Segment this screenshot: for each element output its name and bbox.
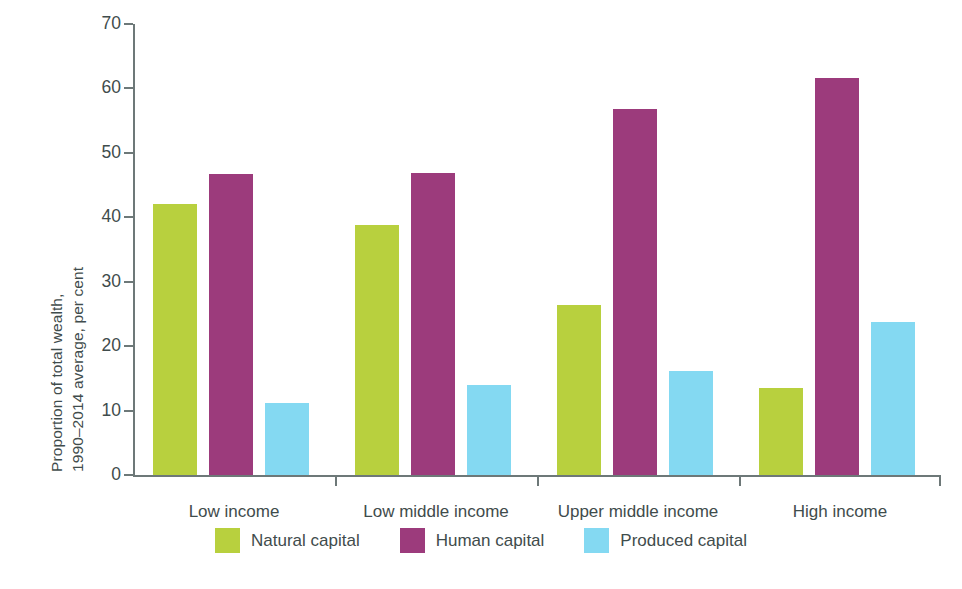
bar bbox=[265, 403, 309, 475]
y-axis-tick bbox=[124, 87, 133, 89]
category-separator-tick bbox=[739, 475, 741, 486]
y-axis-tick-label: 50 bbox=[43, 144, 121, 162]
category-label: Upper middle income bbox=[537, 502, 739, 522]
y-axis-tick bbox=[124, 281, 133, 283]
y-axis-tick-label: 10 bbox=[43, 402, 121, 420]
bar bbox=[871, 322, 915, 475]
category-label: Low income bbox=[133, 502, 335, 522]
legend-swatch-icon bbox=[215, 528, 240, 553]
chart-legend: Natural capitalHuman capitalProduced cap… bbox=[0, 528, 962, 553]
plot-area: 010203040506070 Low incomeLow middle inc… bbox=[133, 24, 941, 475]
bar bbox=[557, 305, 601, 475]
bar-chart-figure: Proportion of total wealth, 1990–2014 av… bbox=[0, 0, 962, 589]
category-label: High income bbox=[739, 502, 941, 522]
bar bbox=[815, 78, 859, 475]
legend-label: Human capital bbox=[436, 531, 545, 551]
bar bbox=[209, 174, 253, 475]
legend-swatch-icon bbox=[400, 528, 425, 553]
bar bbox=[759, 388, 803, 475]
category-separator-tick bbox=[939, 475, 941, 486]
legend-item: Human capital bbox=[400, 528, 545, 553]
legend-label: Natural capital bbox=[251, 531, 360, 551]
bar bbox=[613, 109, 657, 475]
y-axis-tick bbox=[124, 410, 133, 412]
category-separator-tick bbox=[537, 475, 539, 486]
y-axis-tick bbox=[124, 23, 133, 25]
bar bbox=[153, 204, 197, 475]
y-axis-line bbox=[133, 24, 135, 476]
y-axis-tick-label: 0 bbox=[43, 466, 121, 484]
y-axis-tick-label: 70 bbox=[43, 15, 121, 33]
y-axis-tick-label: 20 bbox=[43, 337, 121, 355]
category-label: Low middle income bbox=[335, 502, 537, 522]
y-axis-tick-label: 40 bbox=[43, 208, 121, 226]
legend-label: Produced capital bbox=[620, 531, 747, 551]
y-axis-tick bbox=[124, 152, 133, 154]
bar bbox=[669, 371, 713, 475]
bar bbox=[467, 385, 511, 475]
y-axis-tick-label: 60 bbox=[43, 79, 121, 97]
legend-item: Natural capital bbox=[215, 528, 360, 553]
bar bbox=[355, 225, 399, 475]
legend-swatch-icon bbox=[584, 528, 609, 553]
category-separator-tick bbox=[335, 475, 337, 486]
y-axis-tick bbox=[124, 345, 133, 347]
y-axis-tick bbox=[124, 474, 133, 476]
y-axis-tick bbox=[124, 216, 133, 218]
legend-item: Produced capital bbox=[584, 528, 747, 553]
bar bbox=[411, 173, 455, 475]
y-axis-tick-label: 30 bbox=[43, 273, 121, 291]
